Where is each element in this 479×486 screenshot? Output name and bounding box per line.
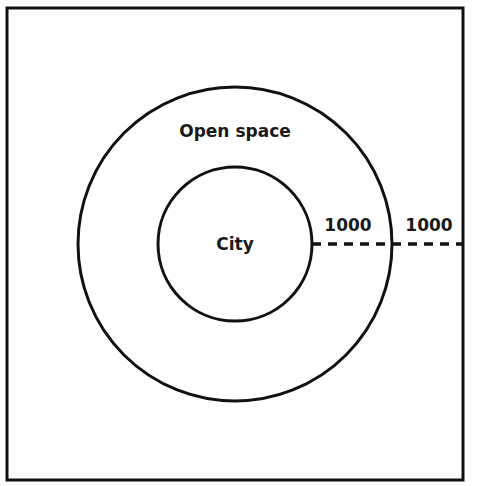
open-space-label: Open space (179, 121, 291, 141)
city-label: City (216, 234, 254, 254)
city-radius-label: 1000 (324, 215, 371, 235)
city-diagram: Open space City 1000 1000 (0, 0, 479, 486)
open-space-width-label: 1000 (405, 215, 452, 235)
